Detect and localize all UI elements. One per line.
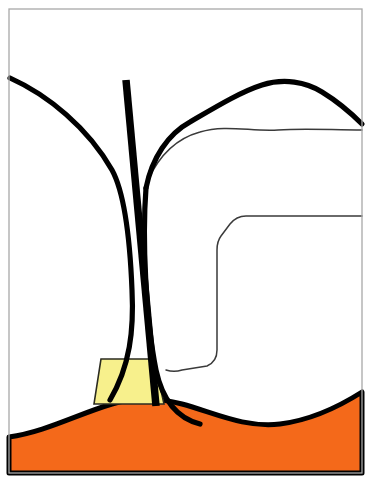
dental-illustration-canvas: [0, 0, 373, 483]
dental-diagram-figure: [0, 0, 373, 483]
tooth-bodies-layer: [10, 78, 362, 430]
